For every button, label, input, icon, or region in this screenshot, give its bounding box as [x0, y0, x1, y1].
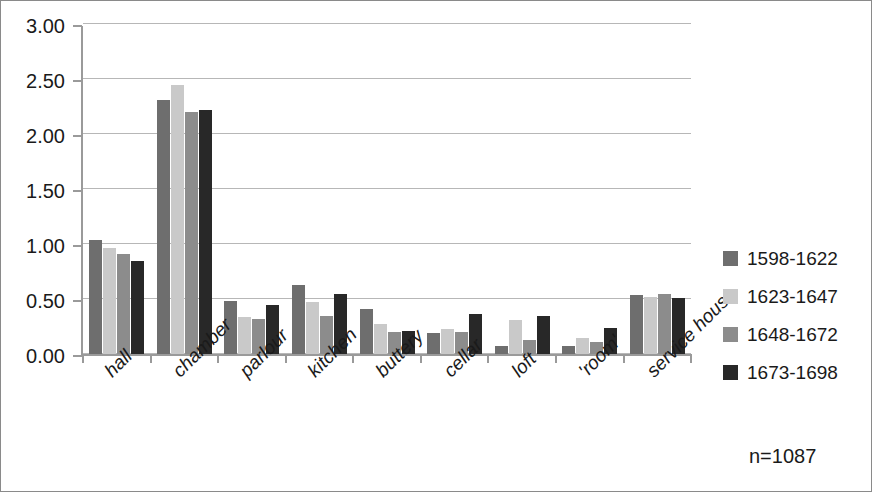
bar	[238, 317, 251, 354]
bar	[537, 316, 550, 355]
bar-group	[624, 26, 692, 354]
legend-swatch-icon	[723, 251, 738, 266]
bar	[427, 333, 440, 354]
bar-group	[151, 26, 219, 354]
legend-label: 1673-1698	[747, 363, 838, 382]
plot-area	[81, 26, 691, 356]
y-axis-tick-label: 0.50	[0, 291, 65, 311]
x-axis-tick-mark	[217, 354, 219, 363]
bar-series-container	[83, 26, 691, 354]
y-axis-tick-label: 2.00	[0, 126, 65, 146]
legend-label: 1648-1672	[747, 325, 838, 344]
bar	[644, 297, 657, 354]
x-axis-tick-mark	[690, 354, 692, 363]
x-axis-tick-mark	[82, 354, 84, 363]
bar	[441, 329, 454, 354]
bar	[117, 254, 130, 354]
bar	[103, 248, 116, 354]
bar-group	[83, 26, 151, 354]
y-axis-tick-label: 0.00	[0, 346, 65, 366]
bar	[562, 346, 575, 354]
legend: 1598-16221623-16471648-16721673-1698	[723, 239, 838, 391]
legend-swatch-icon	[723, 327, 738, 342]
bar	[157, 100, 170, 354]
x-axis-tick-mark	[150, 354, 152, 363]
bar-group	[556, 26, 624, 354]
y-axis-tick-label: 1.00	[0, 236, 65, 256]
bar-group	[488, 26, 556, 354]
legend-item: 1648-1672	[723, 315, 838, 353]
y-axis-tick-label: 3.00	[0, 16, 65, 36]
x-axis-tick-mark	[285, 354, 287, 363]
bar	[360, 309, 373, 354]
bar	[89, 240, 102, 354]
x-axis-tick-mark	[555, 354, 557, 363]
bar	[495, 346, 508, 354]
bar	[292, 285, 305, 354]
bar	[509, 320, 522, 354]
bar	[199, 110, 212, 354]
sample-size-annotation: n=1087	[749, 445, 816, 468]
bar	[185, 112, 198, 354]
y-axis-tick-label: 2.50	[0, 71, 65, 91]
legend-item: 1623-1647	[723, 277, 838, 315]
bar	[306, 302, 319, 354]
legend-swatch-icon	[723, 365, 738, 380]
x-axis-tick-mark	[352, 354, 354, 363]
bar-group	[421, 26, 489, 354]
x-axis-tick-mark	[623, 354, 625, 363]
legend-swatch-icon	[723, 289, 738, 304]
gridline	[83, 23, 691, 24]
bar	[374, 324, 387, 354]
legend-item: 1673-1698	[723, 353, 838, 391]
x-axis-tick-mark	[420, 354, 422, 363]
chart-figure: 0.000.501.001.502.002.503.00 hallchamber…	[0, 0, 872, 492]
bar-group	[286, 26, 354, 354]
bar-group	[218, 26, 286, 354]
legend-label: 1623-1647	[747, 287, 838, 306]
bar	[171, 85, 184, 355]
y-axis-tick-label: 1.50	[0, 181, 65, 201]
bar	[630, 295, 643, 354]
legend-item: 1598-1622	[723, 239, 838, 277]
x-axis-tick-mark	[487, 354, 489, 363]
bar	[131, 261, 144, 355]
legend-label: 1598-1622	[747, 249, 838, 268]
bar-group	[353, 26, 421, 354]
